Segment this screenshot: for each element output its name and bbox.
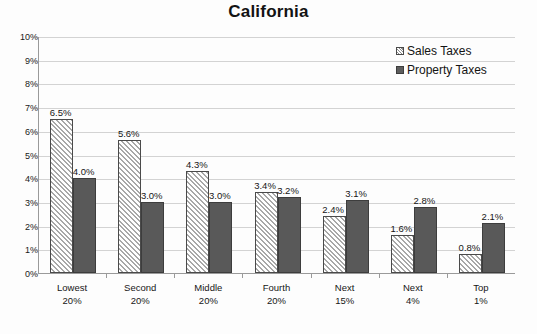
x-axis-category-line1: Middle <box>174 282 242 295</box>
legend-swatch-property-taxes-icon <box>396 66 404 74</box>
x-axis-tick-mark <box>447 274 448 278</box>
bar-sales <box>459 254 482 273</box>
bar-value-label: 5.6% <box>111 128 146 139</box>
bar-sales <box>391 235 414 273</box>
bar-property <box>73 178 96 273</box>
bar-value-label: 4.0% <box>66 166 101 177</box>
x-axis-tick-mark <box>106 274 107 278</box>
x-axis-category-line1: Top <box>447 282 515 295</box>
legend-swatch-sales-taxes-icon <box>396 47 404 55</box>
x-axis-tick-mark <box>242 274 243 278</box>
x-axis-category-label: Fourth20% <box>242 282 310 307</box>
x-axis-tick-mark <box>311 274 312 278</box>
bar-sales <box>186 171 209 273</box>
gridline <box>39 108 515 109</box>
bar-property <box>278 197 301 273</box>
x-axis-category-label: Next4% <box>379 282 447 307</box>
x-axis-category-line2: 1% <box>447 295 515 308</box>
x-axis-category-line1: Next <box>379 282 447 295</box>
x-axis-category-line2: 20% <box>106 295 174 308</box>
x-axis-tick-mark <box>379 274 380 278</box>
x-axis-category-label: Middle20% <box>174 282 242 307</box>
legend-label-property-taxes: Property Taxes <box>407 63 487 77</box>
x-axis-category-label: Next15% <box>311 282 379 307</box>
x-axis-category-line2: 20% <box>38 295 106 308</box>
bar-property <box>209 202 232 273</box>
x-axis-category-label: Top1% <box>447 282 515 307</box>
gridline <box>39 37 515 38</box>
bar-property <box>141 202 164 273</box>
y-axis: 10%9%8%7%6%5%4%3%2%1%0% <box>0 0 38 334</box>
legend-item-property-taxes: Property Taxes <box>396 60 534 79</box>
bar-value-label: 1.6% <box>384 223 419 234</box>
bar-value-label: 6.5% <box>43 107 78 118</box>
bar-sales <box>255 192 278 273</box>
x-axis-category-line1: Fourth <box>242 282 310 295</box>
bar-sales <box>323 216 346 273</box>
x-axis-category-line2: 15% <box>311 295 379 308</box>
gridline <box>39 84 515 85</box>
bar-property <box>414 207 437 273</box>
y-axis-tick-mark <box>34 274 38 275</box>
bar-chart: California 10%9%8%7%6%5%4%3%2%1%0% Sales… <box>0 0 537 334</box>
x-axis-category-label: Lowest20% <box>38 282 106 307</box>
bar-value-label: 4.3% <box>179 159 214 170</box>
bar-value-label: 3.0% <box>202 190 237 201</box>
chart-legend: Sales Taxes Property Taxes <box>396 41 534 79</box>
bar-value-label: 3.2% <box>271 185 306 196</box>
gridline <box>39 156 515 157</box>
bar-value-label: 0.8% <box>452 242 487 253</box>
legend-item-sales-taxes: Sales Taxes <box>396 41 534 60</box>
chart-title: California <box>0 2 537 22</box>
x-axis-category-line2: 20% <box>174 295 242 308</box>
bar-value-label: 3.0% <box>134 190 169 201</box>
x-axis-category-line2: 4% <box>379 295 447 308</box>
bar-sales <box>118 140 141 273</box>
bar-value-label: 2.8% <box>407 195 442 206</box>
x-axis-category-line1: Second <box>106 282 174 295</box>
x-axis-category-line1: Next <box>311 282 379 295</box>
x-axis-category-label: Second20% <box>106 282 174 307</box>
bar-value-label: 3.1% <box>339 188 374 199</box>
bar-value-label: 2.1% <box>475 211 510 222</box>
x-axis-category-line2: 20% <box>242 295 310 308</box>
legend-label-sales-taxes: Sales Taxes <box>407 44 471 58</box>
bar-sales <box>50 119 73 273</box>
x-axis-category-line1: Lowest <box>38 282 106 295</box>
bar-value-label: 2.4% <box>316 204 351 215</box>
x-axis-tick-mark <box>174 274 175 278</box>
